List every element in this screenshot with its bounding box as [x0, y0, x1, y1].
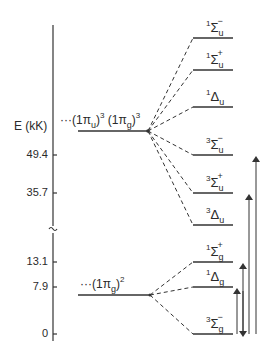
- state-label: 1Δu: [206, 89, 224, 107]
- correlation-lines: [148, 38, 193, 334]
- upper-configuration-label: ···(1πu)3 (1πg)3: [60, 112, 140, 130]
- state-label: 3Σu+: [206, 175, 229, 193]
- tick-label: 13.1: [8, 256, 48, 267]
- configuration-levels: [78, 131, 150, 295]
- state-label: 1Σg+: [206, 244, 229, 262]
- state-label: 1Σu−: [206, 20, 229, 38]
- axis-label: E (kK): [14, 120, 47, 132]
- lower-node: [149, 294, 152, 297]
- tick-label: 7.9: [8, 281, 48, 292]
- tick-label: 35.7: [8, 187, 48, 198]
- tick-label: 49.4: [8, 149, 48, 160]
- state-label: 3Δu: [206, 207, 224, 225]
- upper-node: [146, 129, 150, 133]
- energy-axis: [49, 25, 57, 341]
- lower-configuration-label: ···(1πg)2: [80, 276, 124, 294]
- state-label: 3Σg−: [206, 316, 229, 334]
- state-label: 1Σu+: [206, 52, 229, 70]
- energy-level-diagram: [0, 0, 273, 356]
- state-label: 3Σu−: [206, 137, 229, 155]
- state-label: 1Δg: [206, 269, 224, 287]
- transition-arrows: [237, 159, 256, 334]
- tick-label: 0: [8, 328, 48, 339]
